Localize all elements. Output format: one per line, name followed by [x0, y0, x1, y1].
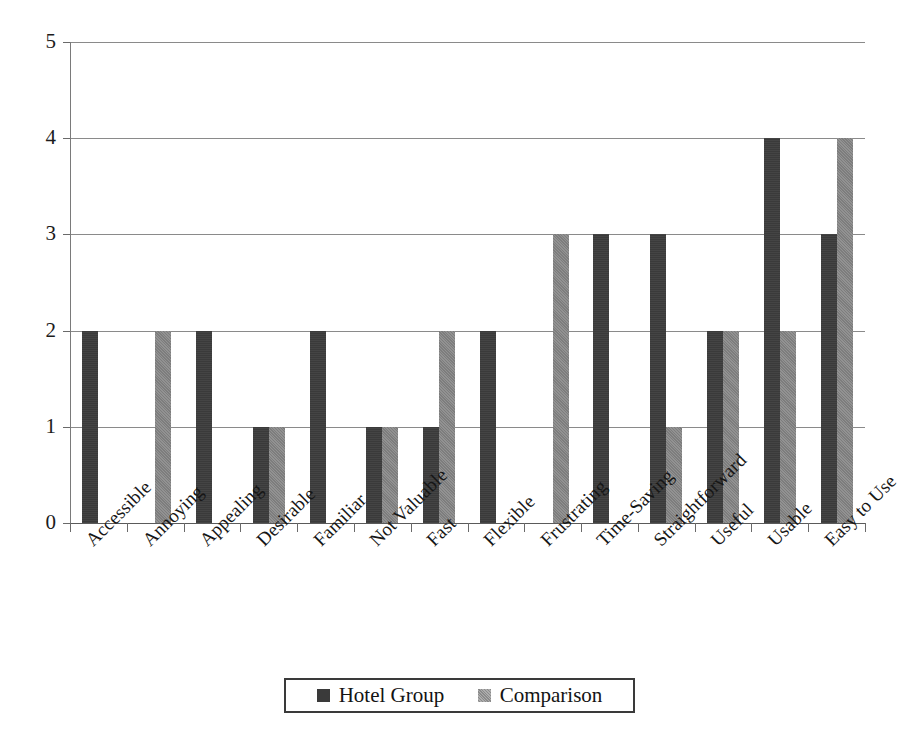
hotel-group-swatch: [317, 689, 330, 702]
x-axis-label-familiar: Familiar: [310, 490, 370, 550]
legend-label: Comparison: [500, 685, 603, 706]
x-axis-label-useful: Useful: [707, 500, 757, 550]
legend: Hotel GroupComparison: [284, 678, 635, 713]
x-axis-label-fast: Fast: [423, 513, 460, 550]
x-axis-label-usable: Usable: [764, 498, 816, 550]
comparison-swatch: [478, 689, 491, 702]
x-axis-label-flexible: Flexible: [480, 491, 539, 550]
bar-chart: 012345 AccessibleAnnoyingAppealingDesira…: [0, 0, 902, 750]
legend-label: Hotel Group: [339, 685, 445, 706]
x-axis-label-easy-to-use: Easy to Use: [821, 471, 900, 550]
legend-entry-hotel-group[interactable]: Hotel Group: [317, 685, 445, 706]
x-axis-labels: AccessibleAnnoyingAppealingDesirableFami…: [0, 0, 902, 750]
legend-entry-comparison[interactable]: Comparison: [478, 685, 603, 706]
